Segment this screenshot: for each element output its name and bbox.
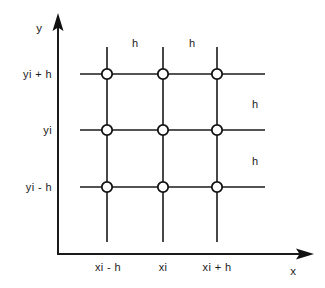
- y-axis-tick-labels: yi + h yi yi - h: [23, 68, 52, 193]
- diagram-canvas: y x yi + h yi yi - h xi - h xi xi + h h …: [0, 0, 325, 288]
- x-axis-tick-labels: xi - h xi xi + h: [95, 261, 232, 273]
- grid-node: [102, 69, 112, 79]
- spacing-label-h-top-left: h: [132, 37, 138, 49]
- y-tick-label-yi-plus-h: yi + h: [23, 68, 52, 80]
- spacing-label-h-top-right: h: [189, 37, 195, 49]
- grid-node: [212, 69, 222, 79]
- grid-stencil-figure: y x yi + h yi yi - h xi - h xi xi + h h …: [0, 0, 325, 288]
- grid-node: [158, 125, 168, 135]
- y-axis-label: y: [36, 22, 42, 34]
- y-tick-label-yi-minus-h: yi - h: [26, 181, 52, 193]
- y-tick-label-yi: yi: [43, 124, 52, 136]
- x-tick-label-xi: xi: [159, 261, 168, 273]
- grid-node: [102, 182, 112, 192]
- grid-node: [212, 125, 222, 135]
- x-tick-label-xi-plus-h: xi + h: [203, 261, 232, 273]
- spacing-label-h-right-lower: h: [252, 155, 258, 167]
- grid-node: [158, 182, 168, 192]
- spacing-label-h-right-upper: h: [252, 98, 258, 110]
- grid-node: [158, 69, 168, 79]
- grid-node: [102, 125, 112, 135]
- x-axis-label: x: [290, 265, 296, 277]
- spacing-annotations: h h h h: [132, 37, 258, 167]
- grid-node: [212, 182, 222, 192]
- x-tick-label-xi-minus-h: xi - h: [95, 261, 121, 273]
- axes: [53, 13, 315, 260]
